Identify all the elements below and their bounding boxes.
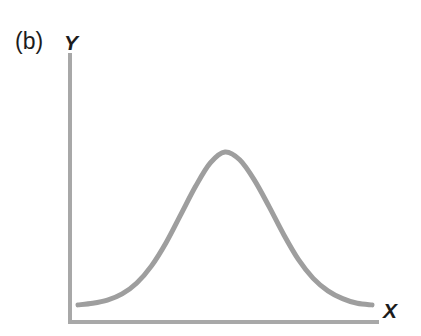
panel-label: (b) (15, 28, 43, 54)
bell-curve-chart: (b) Y X (0, 0, 421, 336)
figure-panel-b: (b) Y X (0, 0, 421, 336)
x-axis-label: X (382, 299, 399, 322)
y-axis-label: Y (64, 31, 80, 54)
